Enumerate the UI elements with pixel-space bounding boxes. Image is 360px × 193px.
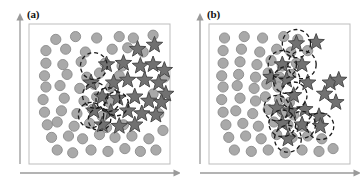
data-point-circle xyxy=(59,93,69,103)
data-point-circle xyxy=(135,146,145,156)
panel-b-plot xyxy=(180,0,360,193)
data-point-circle xyxy=(314,146,324,156)
data-point-circle xyxy=(39,107,49,117)
y-axis-arrowhead xyxy=(196,13,203,21)
data-point-circle xyxy=(70,31,80,41)
data-point-circle xyxy=(253,121,263,131)
data-point-circle xyxy=(68,148,78,158)
data-point-star xyxy=(300,74,316,90)
data-point-circle xyxy=(52,145,62,155)
data-point-circle xyxy=(255,47,265,57)
data-point-circle xyxy=(257,33,267,43)
data-point-circle xyxy=(127,131,137,141)
data-point-circle xyxy=(219,33,229,43)
data-point-circle xyxy=(103,146,113,156)
data-point-circle xyxy=(218,82,228,92)
data-point-circle xyxy=(235,57,245,67)
data-point-circle xyxy=(52,117,62,127)
data-point-star xyxy=(136,71,152,87)
data-point-circle xyxy=(250,72,260,82)
data-point-circle xyxy=(224,132,234,142)
data-point-circle xyxy=(62,69,72,79)
data-point-circle xyxy=(229,145,239,155)
data-point-star xyxy=(146,36,162,52)
data-point-circle xyxy=(151,145,161,155)
data-point-circle xyxy=(55,81,65,91)
data-point-circle xyxy=(280,148,290,158)
data-point-circle xyxy=(260,92,270,102)
data-point-circle xyxy=(80,47,90,57)
data-point-circle xyxy=(72,109,82,119)
data-point-circle xyxy=(328,144,338,154)
data-point-star xyxy=(148,106,164,122)
data-point-circle xyxy=(114,31,124,41)
data-point-circle xyxy=(238,118,248,128)
data-point-circle xyxy=(76,57,86,67)
data-point-circle xyxy=(107,44,117,54)
data-point-circle xyxy=(217,71,227,81)
data-point-circle xyxy=(58,60,68,70)
panel-a: (a) xyxy=(0,0,180,193)
data-point-star xyxy=(328,94,344,110)
data-point-circle xyxy=(41,58,51,68)
data-point-circle xyxy=(46,132,56,142)
panel-a-plot xyxy=(0,0,180,193)
data-point-circle xyxy=(217,95,227,105)
data-point-circle xyxy=(241,131,251,141)
data-point-circle xyxy=(239,31,249,41)
data-point-circle xyxy=(56,106,66,116)
data-point-circle xyxy=(248,109,258,119)
data-point-circle xyxy=(144,134,154,144)
data-point-circle xyxy=(235,93,245,103)
data-point-circle xyxy=(86,145,96,155)
data-point-circle xyxy=(256,134,266,144)
data-point-circle xyxy=(221,120,231,130)
data-point-circle xyxy=(272,44,282,54)
data-point-circle xyxy=(218,107,228,117)
figure-container: (a) (b) xyxy=(0,0,360,193)
panel-b: (b) xyxy=(180,0,360,193)
data-point-circle xyxy=(110,132,120,142)
data-point-circle xyxy=(41,82,51,92)
data-point-circle xyxy=(249,83,259,93)
data-point-circle xyxy=(42,120,52,130)
y-axis-arrowhead xyxy=(16,13,23,21)
data-point-star xyxy=(132,57,148,73)
data-point-circle xyxy=(39,71,49,81)
data-point-circle xyxy=(69,121,79,131)
data-point-circle xyxy=(41,46,51,56)
data-point-circle xyxy=(120,144,130,154)
data-point-circle xyxy=(250,96,260,106)
data-point-circle xyxy=(263,145,273,155)
data-point-circle xyxy=(63,131,73,141)
data-point-circle xyxy=(92,33,102,43)
data-point-circle xyxy=(51,34,61,44)
data-point-star xyxy=(316,85,332,101)
data-point-circle xyxy=(252,60,262,70)
x-axis-arrowhead xyxy=(354,169,360,176)
data-point-circle xyxy=(218,46,228,56)
data-point-circle xyxy=(236,44,246,54)
data-point-circle xyxy=(231,106,241,116)
data-point-circle xyxy=(38,95,48,105)
data-point-circle xyxy=(232,81,242,91)
data-point-circle xyxy=(218,58,228,68)
data-point-circle xyxy=(158,125,168,135)
data-point-circle xyxy=(246,146,256,156)
data-point-star xyxy=(127,88,143,104)
data-point-circle xyxy=(234,69,244,79)
data-point-circle xyxy=(61,44,71,54)
data-point-circle xyxy=(77,134,87,144)
